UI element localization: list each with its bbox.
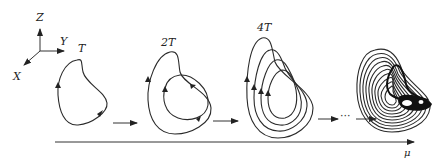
mu-axis-label: μ <box>404 147 411 158</box>
coordinate-axes: Z Y X <box>12 11 69 83</box>
chaotic-attractor <box>357 49 432 132</box>
stage-label-T: T <box>78 42 87 55</box>
period-doubling-diagram: Z Y X T 2T 4T ··· <box>0 0 441 163</box>
stage-label-4T: 4T <box>256 21 273 34</box>
stage-label-2T: 2T <box>160 36 177 49</box>
x-axis-label: X <box>12 70 22 83</box>
ellipsis: ··· <box>340 109 351 122</box>
parameter-axis: μ <box>55 142 414 158</box>
x-axis <box>24 51 40 65</box>
orbit-period-2T: 2T <box>145 36 211 134</box>
orbit-period-4T: 4T <box>244 21 313 138</box>
orbit-period-T: T <box>55 42 107 125</box>
y-axis-label: Y <box>60 35 69 48</box>
z-axis-label: Z <box>35 11 44 24</box>
